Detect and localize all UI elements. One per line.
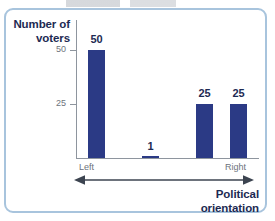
x-axis-line [76, 158, 259, 159]
y-axis-title-line2: voters [8, 32, 70, 46]
bar-3 [196, 104, 213, 158]
bar-2 [142, 156, 159, 158]
orientation-arrow-icon [72, 172, 256, 188]
y-axis-title-line1: Number of [8, 18, 70, 32]
y-axis-line [76, 20, 77, 159]
y-tick-mark-50 [70, 50, 77, 51]
x-tick-label-right: Right [225, 163, 246, 172]
x-axis-title: Political orientation [109, 188, 259, 215]
bar-value-1: 50 [80, 34, 113, 45]
y-tick-label-25: 25 [40, 99, 66, 108]
y-axis-title: Number of voters [8, 18, 70, 45]
x-axis-title-line1: Political [109, 188, 259, 202]
chart-figure: Number of voters 50 25 50 1 25 25 Left R… [0, 0, 275, 221]
x-tick-label-left: Left [79, 163, 94, 172]
bar-value-4: 25 [222, 88, 255, 99]
bar-1 [88, 50, 105, 158]
y-tick-mark-25 [70, 104, 77, 105]
bar-value-2: 1 [134, 141, 167, 152]
y-tick-label-50: 50 [40, 45, 66, 54]
bar-value-3: 25 [188, 88, 221, 99]
bar-4 [230, 104, 247, 158]
bar-chart-plot: Number of voters 50 25 50 1 25 25 Left R… [0, 0, 275, 221]
x-axis-title-line2: orientation [109, 202, 259, 216]
